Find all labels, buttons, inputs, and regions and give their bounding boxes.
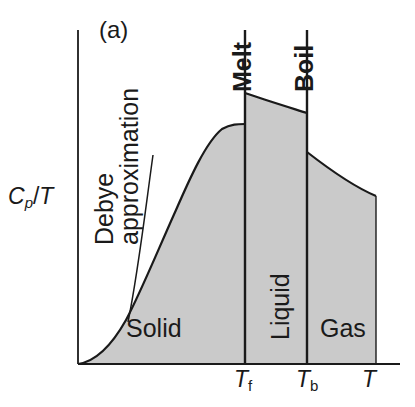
x-tick-tf-subscript: f (248, 377, 252, 394)
region-label-gas: Gas (320, 316, 366, 341)
melt-label: Melt (230, 42, 255, 92)
debye-label-line1: Debye (92, 173, 117, 245)
y-axis-label-t: T (39, 183, 53, 209)
x-tick-label-tb: Tb (296, 368, 318, 393)
heat-capacity-plot (0, 0, 415, 407)
debye-label-line2: approximation (117, 88, 142, 245)
region-label-solid: Solid (126, 316, 182, 341)
x-tick-t-symbol: T (362, 366, 376, 392)
x-tick-label-t: T (362, 368, 376, 391)
y-axis-label-subscript: p (25, 194, 33, 211)
boil-label: Boil (292, 45, 317, 92)
x-tick-tf-symbol: T (234, 366, 248, 392)
y-axis-label-c: C (8, 183, 25, 209)
x-tick-label-tf: Tf (234, 368, 252, 393)
figure-container: Cp/T (a) Melt Boil Debye approximation L… (0, 0, 415, 407)
panel-tag: (a) (99, 18, 128, 42)
y-axis-label: Cp/T (8, 185, 53, 210)
region-label-liquid: Liquid (268, 273, 293, 340)
x-tick-tb-symbol: T (296, 366, 310, 392)
x-tick-tb-subscript: b (310, 377, 318, 394)
